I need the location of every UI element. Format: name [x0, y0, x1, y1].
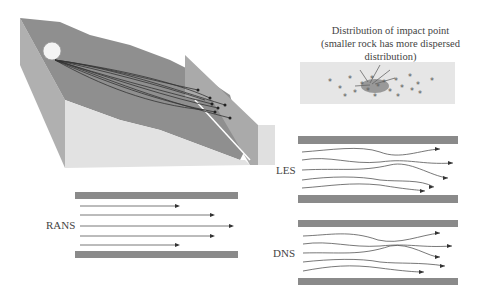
svg-text:*: * — [430, 77, 434, 86]
rans-channel — [75, 192, 238, 258]
svg-text:*: * — [410, 87, 414, 96]
svg-text:*: * — [328, 78, 332, 87]
les-label: LES — [276, 164, 296, 176]
svg-text:*: * — [394, 77, 398, 86]
dns-label: DNS — [273, 247, 295, 259]
distribution-title-line2: (smaller rock has more dispersed distrib… — [300, 37, 481, 63]
rans-label: RANS — [46, 219, 75, 231]
impact-distribution-plot: *** *** *** *** *** *** ** — [300, 62, 455, 104]
svg-text:*: * — [408, 73, 412, 82]
rock-icon — [43, 42, 61, 60]
svg-text:*: * — [416, 81, 420, 90]
svg-text:*: * — [343, 93, 347, 102]
svg-text:*: * — [396, 93, 400, 102]
svg-text:*: * — [388, 88, 392, 97]
svg-text:*: * — [418, 90, 422, 99]
svg-text:*: * — [338, 85, 342, 94]
les-channel — [298, 136, 458, 203]
dns-channel — [298, 220, 458, 285]
svg-text:*: * — [348, 75, 352, 84]
distribution-title-line1: Distribution of impact point — [300, 24, 481, 37]
rockfall-slope-scene — [20, 18, 275, 168]
distribution-title: Distribution of impact point (smaller ro… — [300, 24, 481, 63]
svg-text:*: * — [353, 89, 357, 98]
svg-text:*: * — [373, 93, 377, 102]
svg-text:*: * — [400, 84, 404, 93]
